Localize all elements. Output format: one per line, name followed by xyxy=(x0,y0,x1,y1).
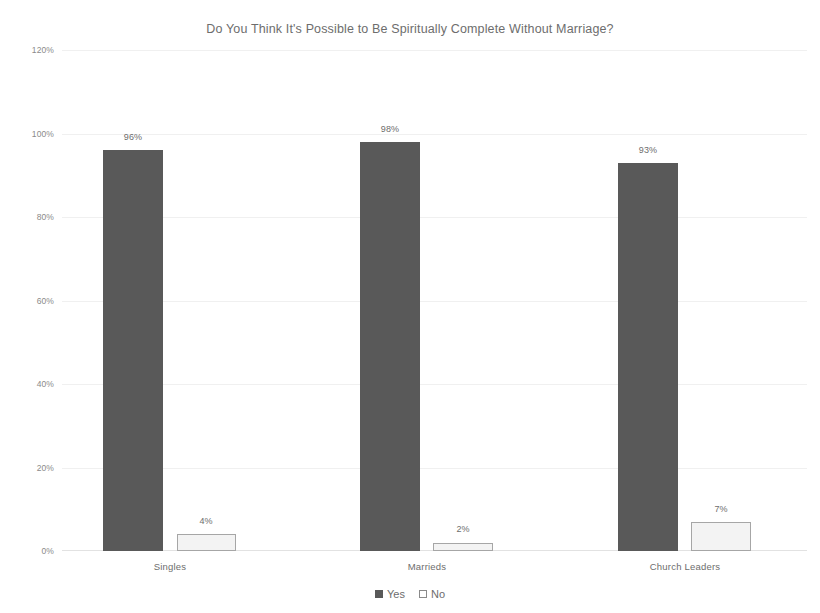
data-label-churchleaders-no: 7% xyxy=(714,504,727,514)
bar-chart: Do You Think It's Possible to Be Spiritu… xyxy=(0,0,820,613)
bar-marrieds-yes[interactable] xyxy=(360,142,420,551)
x-category-label-marrieds: Marrieds xyxy=(408,561,447,572)
filled-square-icon xyxy=(375,590,383,598)
y-tick-label-120: 120% xyxy=(8,45,54,55)
bar-singles-yes[interactable] xyxy=(103,150,163,551)
bar-churchleaders-yes[interactable] xyxy=(618,163,678,551)
bar-churchleaders-no[interactable] xyxy=(691,522,751,551)
legend-label-no: No xyxy=(431,588,445,600)
gridline-40 xyxy=(62,384,807,385)
gridline-120 xyxy=(62,50,807,51)
y-tick-label-80: 80% xyxy=(8,212,54,222)
legend-item-yes[interactable]: Yes xyxy=(375,588,405,600)
y-tick-label-100: 100% xyxy=(8,129,54,139)
plot-area: 96% 4% 98% 2% 93% 7% xyxy=(62,50,807,551)
data-label-singles-yes: 96% xyxy=(124,132,142,142)
y-tick-label-60: 60% xyxy=(8,296,54,306)
outlined-square-icon xyxy=(419,590,427,598)
bar-singles-no[interactable] xyxy=(177,534,236,551)
gridline-20 xyxy=(62,468,807,469)
gridline-80 xyxy=(62,217,807,218)
chart-legend: Yes No xyxy=(0,588,820,600)
data-label-singles-no: 4% xyxy=(199,516,212,526)
y-tick-label-0: 0% xyxy=(8,546,54,556)
data-label-churchleaders-yes: 93% xyxy=(639,145,657,155)
x-category-label-church-leaders: Church Leaders xyxy=(650,561,720,572)
gridline-100 xyxy=(62,134,807,135)
y-tick-label-40: 40% xyxy=(8,379,54,389)
chart-title: Do You Think It's Possible to Be Spiritu… xyxy=(0,22,820,36)
x-category-label-singles: Singles xyxy=(154,561,187,572)
gridline-60 xyxy=(62,301,807,302)
bar-marrieds-no[interactable] xyxy=(433,543,493,551)
y-tick-label-20: 20% xyxy=(8,463,54,473)
legend-item-no[interactable]: No xyxy=(419,588,445,600)
data-label-marrieds-no: 2% xyxy=(456,524,469,534)
data-label-marrieds-yes: 98% xyxy=(381,124,399,134)
y-axis: 120% 100% 80% 60% 40% 20% 0% xyxy=(0,50,54,551)
legend-label-yes: Yes xyxy=(387,588,405,600)
